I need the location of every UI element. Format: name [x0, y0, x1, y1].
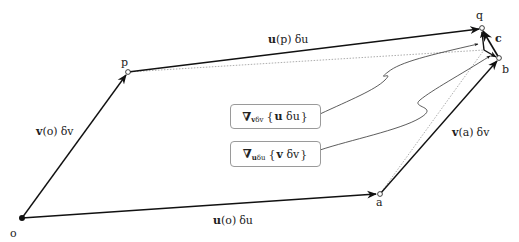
correction-arrow-m-q: [482, 32, 484, 50]
point-b: [497, 56, 502, 61]
annotation-box-nabla-v-u: ∇vδv{u δu}: [230, 104, 321, 129]
label-v-at-o: v(o)δv: [35, 125, 74, 138]
label-v-at-a: v(a)δv: [451, 126, 490, 139]
label-o: o: [10, 227, 17, 240]
label-p: p: [121, 56, 128, 69]
leader-line-box1: [320, 44, 478, 114]
point-q: [480, 26, 485, 31]
nabla-symbol: ∇: [242, 110, 251, 124]
label-q: q: [476, 9, 483, 22]
label-u-at-p: u(p)δu: [268, 33, 308, 46]
label-a: a: [376, 196, 383, 209]
label-u-at-o: u(o)δu: [213, 214, 253, 227]
dotted-line-a-m: [380, 50, 484, 194]
label-c: c: [495, 32, 502, 45]
nabla-subscript: vδv: [251, 115, 263, 124]
vector-u-at-o: [22, 194, 376, 218]
annotation-box-nabla-u-v: ∇uδu{v δv}: [230, 141, 321, 167]
vector-v-at-o: [22, 75, 126, 218]
point-o: [19, 215, 25, 221]
point-p: [126, 70, 131, 75]
nabla-symbol: ∇: [243, 147, 252, 161]
nabla-subscript: uδu: [252, 153, 266, 162]
dotted-line-p-m: [128, 50, 484, 72]
label-b: b: [502, 63, 509, 76]
